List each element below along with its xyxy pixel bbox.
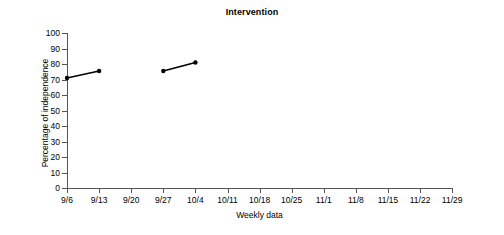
x-tick-label: 10/11 <box>217 195 238 205</box>
x-tick-label: 11/1 <box>316 195 332 205</box>
x-tick-mark <box>388 188 389 193</box>
x-tick-mark <box>131 188 132 193</box>
series-line <box>67 71 99 78</box>
data-point-marker <box>193 60 197 64</box>
series-segment-2 <box>161 60 197 73</box>
y-tick-label: 0 <box>55 183 60 193</box>
y-tick-label: 40 <box>51 121 60 131</box>
y-tick-label: 20 <box>51 152 60 162</box>
y-tick-label: 80 <box>51 59 60 69</box>
x-tick-label: 11/29 <box>442 195 463 205</box>
x-tick-label: 11/8 <box>348 195 364 205</box>
data-point-marker <box>65 76 69 80</box>
series-line <box>163 62 195 71</box>
plot-area: 0102030405060708090100 <box>67 33 452 188</box>
series-segment-1 <box>65 69 102 80</box>
x-tick-mark <box>67 188 68 193</box>
chart-figure: Intervention Percentage of independence … <box>0 0 504 235</box>
data-series-layer <box>67 33 452 188</box>
x-tick-label: 10/25 <box>281 195 302 205</box>
x-tick-label: 11/22 <box>410 195 431 205</box>
y-tick-label: 70 <box>51 75 60 85</box>
data-point-marker <box>161 69 165 73</box>
x-tick-label: 9/6 <box>61 195 73 205</box>
x-tick-mark <box>260 188 261 193</box>
y-tick-label: 10 <box>51 168 60 178</box>
x-tick-mark <box>452 188 453 193</box>
x-tick-label: 10/4 <box>187 195 204 205</box>
x-tick-label: 9/27 <box>155 195 172 205</box>
x-tick-label: 10/18 <box>249 195 270 205</box>
x-tick-mark <box>228 188 229 193</box>
x-tick-mark <box>356 188 357 193</box>
x-axis-title: Weekly data <box>67 210 452 220</box>
y-tick-label: 90 <box>51 44 60 54</box>
y-tick-label: 100 <box>46 28 60 38</box>
x-tick-mark <box>420 188 421 193</box>
x-tick-label: 9/13 <box>91 195 108 205</box>
chart-title: Intervention <box>0 7 504 17</box>
data-point-marker <box>97 69 101 73</box>
y-tick-label: 60 <box>51 90 60 100</box>
y-tick-label: 30 <box>51 137 60 147</box>
x-tick-mark <box>163 188 164 193</box>
y-axis-title: Percentage of independence <box>40 28 50 198</box>
x-tick-mark <box>99 188 100 193</box>
x-tick-label: 9/20 <box>123 195 140 205</box>
y-tick-label: 50 <box>51 106 60 116</box>
x-tick-label: 11/15 <box>378 195 399 205</box>
x-tick-mark <box>195 188 196 193</box>
x-tick-mark <box>324 188 325 193</box>
x-tick-mark <box>292 188 293 193</box>
